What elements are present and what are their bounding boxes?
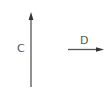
vector-diagram bbox=[0, 0, 105, 105]
vector-c-label: C bbox=[17, 43, 25, 54]
vector-d-label: D bbox=[80, 35, 88, 46]
vector-c-arrow bbox=[29, 12, 34, 87]
vector-d-arrow bbox=[68, 47, 104, 52]
